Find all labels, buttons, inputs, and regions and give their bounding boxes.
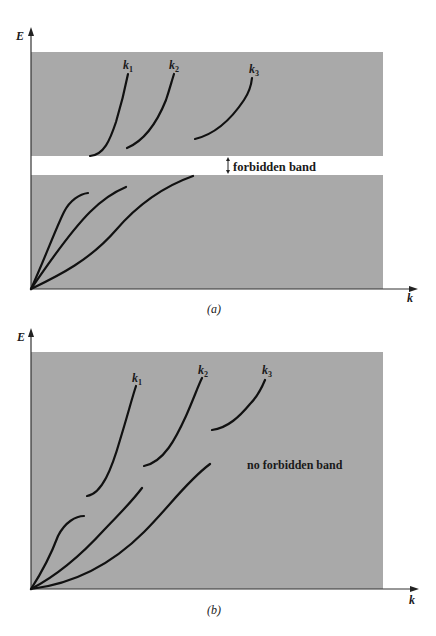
panel-b: E k k1 k2 k3 no forbidden band (b) <box>16 328 419 617</box>
panel-a-caption: (a) <box>207 302 221 316</box>
panel-b-caption: (b) <box>207 603 221 617</box>
lower-allowed-band <box>31 175 383 289</box>
forbidden-band-label: forbidden band <box>233 160 316 174</box>
x-axis-label: k <box>407 291 413 305</box>
y-axis-label: E <box>16 330 25 344</box>
x-axis-arrow-icon <box>410 586 419 592</box>
panel-a: E k k1 k2 k3 forbidden band (a) <box>15 27 418 316</box>
gap-arrow-down-icon <box>226 170 230 174</box>
y-axis-arrow-icon <box>28 328 34 337</box>
gap-arrow-up-icon <box>226 157 230 161</box>
no-forbidden-band-label: no forbidden band <box>247 458 343 472</box>
y-axis-label: E <box>15 29 24 43</box>
y-axis-arrow-icon <box>28 27 34 36</box>
upper-allowed-band <box>31 52 383 156</box>
x-axis-label: k <box>409 593 415 607</box>
band-diagram: E k k1 k2 k3 forbidden band (a) E k <box>0 0 436 636</box>
